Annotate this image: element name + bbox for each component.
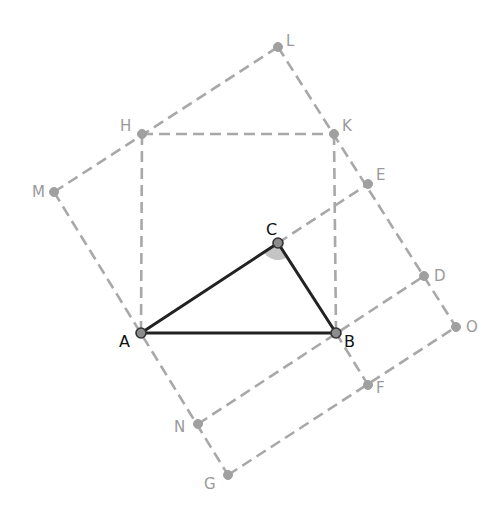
label-B: B	[344, 332, 355, 351]
construction-lines	[54, 47, 456, 475]
dashed-line-ML	[54, 47, 278, 192]
label-C: C	[266, 220, 277, 239]
point-E	[364, 180, 373, 189]
side-BC	[278, 243, 336, 333]
label-L: L	[286, 32, 295, 50]
dashed-line-GO	[228, 327, 456, 475]
label-G: G	[204, 475, 216, 493]
triangle-abc	[141, 243, 336, 333]
dashed-line-KB	[334, 134, 336, 333]
label-K: K	[342, 117, 353, 135]
label-O: O	[466, 318, 478, 336]
point-M	[50, 188, 59, 197]
dashed-line-HA	[141, 134, 142, 333]
geometry-diagram: ABCHKLMEDOFNG	[0, 0, 504, 519]
label-D: D	[434, 267, 446, 285]
dashed-line-ND	[198, 276, 424, 424]
dashed-line-CE	[278, 184, 368, 243]
point-D	[420, 272, 429, 281]
point-F	[364, 381, 373, 390]
label-N: N	[174, 418, 185, 436]
point-C	[273, 238, 283, 248]
point-N	[194, 420, 203, 429]
label-A: A	[119, 332, 130, 351]
point-G	[224, 471, 233, 480]
points	[50, 43, 461, 480]
label-H: H	[120, 117, 131, 135]
label-E: E	[376, 166, 385, 184]
label-M: M	[32, 183, 45, 201]
point-H	[138, 130, 147, 139]
point-A	[136, 328, 146, 338]
point-O	[452, 323, 461, 332]
point-L	[274, 43, 283, 52]
label-F: F	[376, 379, 385, 397]
point-labels: ABCHKLMEDOFNG	[32, 32, 478, 493]
point-K	[330, 130, 339, 139]
point-B	[331, 328, 341, 338]
side-CA	[141, 243, 278, 333]
